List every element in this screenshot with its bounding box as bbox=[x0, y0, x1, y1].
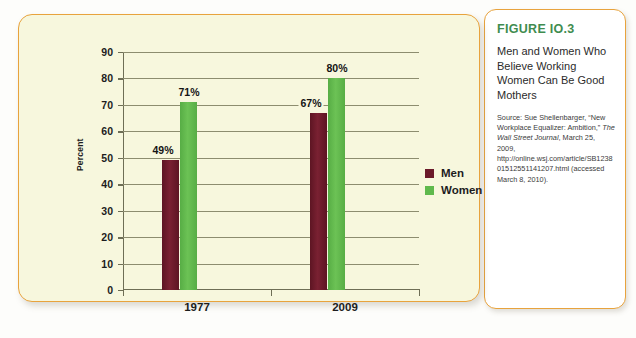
bar-men-1977 bbox=[162, 160, 179, 290]
y-tick-label: 10 bbox=[83, 258, 113, 270]
x-tick-mark bbox=[123, 289, 124, 296]
legend-label-men: Men bbox=[441, 167, 464, 179]
bar-value-label-men-2009: 67% bbox=[298, 97, 323, 109]
y-tick-label: 50 bbox=[83, 152, 113, 164]
x-tick-mark bbox=[271, 289, 272, 296]
bar-value-label-women-2009: 80% bbox=[324, 62, 349, 74]
y-tick-label: 90 bbox=[83, 46, 113, 58]
y-tick-label: 80 bbox=[83, 72, 113, 84]
figure-title: Men and Women Who Believe Working Women … bbox=[497, 44, 615, 103]
y-tick-label: 0 bbox=[83, 284, 113, 296]
x-category-label-1977: 1977 bbox=[184, 301, 210, 313]
chart-legend: Men Women bbox=[425, 167, 482, 201]
figure-source-citation: Source: Sue Shellenbarger, “New Workplac… bbox=[497, 113, 615, 186]
y-tick-label: 70 bbox=[83, 99, 113, 111]
x-tick-mark bbox=[419, 289, 420, 296]
bar-women-2009 bbox=[328, 78, 345, 290]
legend-item-men: Men bbox=[425, 167, 482, 179]
y-tick-label: 40 bbox=[83, 178, 113, 190]
y-tick-label: 30 bbox=[83, 205, 113, 217]
source-text-prefix: Source: Sue Shellenbarger, “New Workplac… bbox=[497, 113, 605, 132]
plot-wrapper: Percent 0102030405060708090 49%71%67%80%… bbox=[19, 15, 481, 303]
legend-item-women: Women bbox=[425, 184, 482, 196]
chart-panel: Percent 0102030405060708090 49%71%67%80%… bbox=[18, 14, 480, 302]
bar-men-2009 bbox=[310, 113, 327, 290]
figure-number-label: FIGURE IO.3 bbox=[497, 22, 615, 36]
legend-label-women: Women bbox=[441, 184, 482, 196]
y-tick-label: 60 bbox=[83, 125, 113, 137]
figure-root: FIGURE IO.3 Men and Women Who Believe Wo… bbox=[0, 0, 636, 338]
bar-value-label-women-1977: 71% bbox=[176, 86, 201, 98]
bar-value-label-men-1977: 49% bbox=[150, 144, 175, 156]
bar-women-1977 bbox=[180, 102, 197, 290]
legend-swatch-women-icon bbox=[425, 186, 434, 195]
legend-swatch-men-icon bbox=[425, 169, 434, 178]
y-tick-label: 20 bbox=[83, 231, 113, 243]
figure-caption-panel: FIGURE IO.3 Men and Women Who Believe Wo… bbox=[484, 9, 626, 309]
plot-area: 49%71%67%80% bbox=[123, 52, 419, 290]
x-category-label-2009: 2009 bbox=[332, 301, 358, 313]
